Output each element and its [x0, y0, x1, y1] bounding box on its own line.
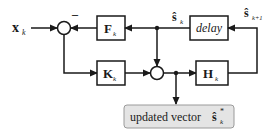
- output-superscript: *: [220, 107, 224, 116]
- block-delay: delay: [190, 16, 228, 40]
- block-h-symbol: H: [203, 66, 213, 81]
- output-label: updated vector: [130, 110, 201, 124]
- s-hat-k-subscript: k: [180, 18, 184, 26]
- block-f-symbol: F: [104, 21, 112, 36]
- left-summing-junction: [58, 22, 71, 35]
- input-label: x k: [12, 20, 26, 37]
- signal-s-hat-k-label: ŝ k: [172, 10, 184, 26]
- input-subscript: k: [22, 28, 26, 37]
- signal-s-hat-k1-label: ŝ k+1: [244, 6, 263, 21]
- block-k: K k: [97, 61, 125, 85]
- h-to-delay-feedback: [228, 28, 257, 73]
- block-delay-label: delay: [196, 21, 223, 35]
- kalman-filter-block-diagram: x k – F k ŝ k delay ŝ k+1 K k: [0, 0, 274, 135]
- block-h: H k: [196, 61, 228, 85]
- block-f: F k: [97, 16, 125, 40]
- s-hat-k1-subscript: k+1: [252, 14, 263, 21]
- output-symbol: ŝ: [212, 110, 217, 124]
- s-hat-k-symbol: ŝ: [172, 10, 177, 24]
- middle-summing-junction: [151, 67, 164, 80]
- output-updated-vector: updated vector ŝ k *: [124, 105, 234, 128]
- input-symbol: x: [12, 20, 19, 35]
- s-hat-k1-symbol: ŝ: [244, 6, 249, 20]
- sum-to-k-arrow: [64, 35, 97, 74]
- minus-sign: –: [71, 7, 79, 21]
